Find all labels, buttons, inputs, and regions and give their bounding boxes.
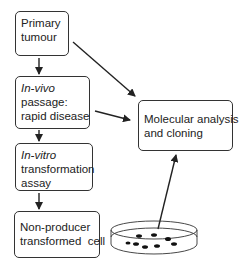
node-label-line: assay [21, 176, 87, 190]
node-label-line: tumour [21, 30, 63, 44]
node-label-line: Molecular analysis [144, 112, 227, 126]
petri-dish-icon [111, 221, 197, 254]
node-label-line: transformed cell [20, 234, 94, 248]
node-label-line: and cloning [144, 126, 227, 140]
colony-dots [126, 233, 178, 249]
node-label-line: In-vitro [21, 148, 87, 162]
node-label-line: rapid disease [21, 109, 84, 123]
node-label-line: passage: [21, 95, 84, 109]
node-label-line: Primary [21, 16, 63, 30]
node-molecular-analysis: Molecular analysis and cloning [138, 100, 233, 151]
node-nonproducer-cell: Non-producer transformed cell [14, 211, 100, 258]
node-invitro-assay: In-vitro transformation assay [15, 143, 93, 191]
arrow-dish-to-molecular [158, 155, 176, 229]
node-primary-tumour: Primary tumour [15, 11, 69, 56]
arrow-invivo-to-molecular [95, 111, 130, 120]
node-label-line: In-vivo [21, 81, 84, 95]
node-invivo-passage: In-vivo passage: rapid disease [15, 76, 90, 129]
node-label-line: Non-producer [20, 220, 94, 234]
node-label-line: transformation [21, 162, 87, 176]
